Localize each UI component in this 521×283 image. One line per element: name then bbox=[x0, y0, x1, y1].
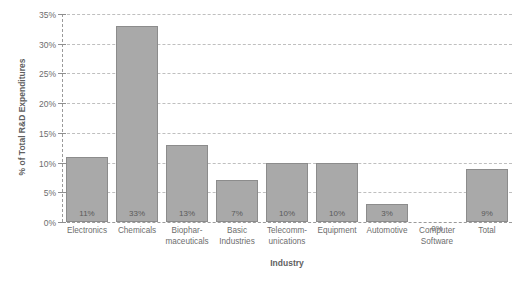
x-axis-label: Automotive bbox=[362, 226, 412, 247]
x-axis-label-line: Computer bbox=[413, 226, 461, 237]
y-tick-label: 30% bbox=[39, 40, 56, 50]
bar-slot: 10% bbox=[262, 14, 312, 222]
bar-slot: 7% bbox=[212, 14, 262, 222]
x-axis-label: BasicIndustries bbox=[212, 226, 262, 247]
bar-slot: 10% bbox=[312, 14, 362, 222]
bar[interactable]: 13% bbox=[166, 145, 208, 222]
y-tick-label: 0% bbox=[44, 218, 56, 228]
x-axis-label-line: Biophar- bbox=[163, 226, 211, 237]
y-axis-title: % of Total R&D Expenditures bbox=[17, 22, 27, 212]
y-tick-label: 5% bbox=[44, 188, 56, 198]
x-axis-label: Equipment bbox=[312, 226, 362, 247]
bar-value-label: 7% bbox=[217, 209, 257, 218]
x-axis-label: Biophar-maceuticals bbox=[162, 226, 212, 247]
bar[interactable]: 7% bbox=[216, 180, 258, 222]
y-tick-mark bbox=[58, 222, 66, 223]
plot-area: 0%5%10%15%20%25%30%35% 11%33%13%7%10%10%… bbox=[62, 14, 512, 222]
bar-chart: % of Total R&D Expenditures 0%5%10%15%20… bbox=[0, 0, 521, 283]
x-axis-label-line: Software bbox=[413, 237, 461, 248]
bar-value-label: 13% bbox=[167, 209, 207, 218]
bar-value-label: 3% bbox=[367, 209, 407, 218]
x-axis-label-line: Telecomm- bbox=[263, 226, 311, 237]
bar-value-label: 33% bbox=[117, 209, 157, 218]
bar-slot: 0% bbox=[412, 14, 462, 222]
bar[interactable]: 11% bbox=[66, 157, 108, 222]
bar[interactable]: 9% bbox=[466, 169, 508, 222]
x-axis-label-line: Industries bbox=[213, 237, 261, 248]
bar-value-label: 9% bbox=[467, 209, 507, 218]
bar-series: 11%33%13%7%10%10%3%0%9% bbox=[62, 14, 512, 222]
y-tick-label: 35% bbox=[39, 10, 56, 20]
bar[interactable]: 10% bbox=[316, 163, 358, 222]
bar-slot: 9% bbox=[462, 14, 512, 222]
x-axis-label: Total bbox=[462, 226, 512, 247]
x-axis-label: ComputerSoftware bbox=[412, 226, 462, 247]
x-axis-label-line: Equipment bbox=[313, 226, 361, 237]
x-axis-label: Telecomm-unications bbox=[262, 226, 312, 247]
bar-slot: 33% bbox=[112, 14, 162, 222]
y-tick-label: 10% bbox=[39, 159, 56, 169]
y-tick-label: 25% bbox=[39, 69, 56, 79]
x-axis-label-line: Automotive bbox=[363, 226, 411, 237]
bar[interactable]: 3% bbox=[366, 204, 408, 222]
y-tick-label: 20% bbox=[39, 99, 56, 109]
x-axis-label-line: Electronics bbox=[63, 226, 111, 237]
x-axis-label-line: Basic bbox=[213, 226, 261, 237]
bar-slot: 11% bbox=[62, 14, 112, 222]
x-axis-label: Chemicals bbox=[112, 226, 162, 247]
bar-slot: 3% bbox=[362, 14, 412, 222]
x-axis-label-line: maceuticals bbox=[163, 237, 211, 248]
bar-slot: 13% bbox=[162, 14, 212, 222]
bar[interactable]: 10% bbox=[266, 163, 308, 222]
x-axis-label: Electronics bbox=[62, 226, 112, 247]
x-axis-label-line: unications bbox=[263, 237, 311, 248]
x-axis-title: Industry bbox=[62, 258, 512, 268]
chart-title bbox=[0, 0, 521, 6]
bar-value-label: 10% bbox=[267, 209, 307, 218]
bar[interactable]: 33% bbox=[116, 26, 158, 222]
bar-value-label: 11% bbox=[67, 209, 107, 218]
x-axis-label-line: Chemicals bbox=[113, 226, 161, 237]
x-axis-labels: ElectronicsChemicalsBiophar-maceuticalsB… bbox=[62, 226, 512, 247]
y-tick-label: 15% bbox=[39, 129, 56, 139]
bar-value-label: 10% bbox=[317, 209, 357, 218]
gridline: 0% bbox=[62, 222, 512, 223]
x-axis-label-line: Total bbox=[463, 226, 511, 237]
